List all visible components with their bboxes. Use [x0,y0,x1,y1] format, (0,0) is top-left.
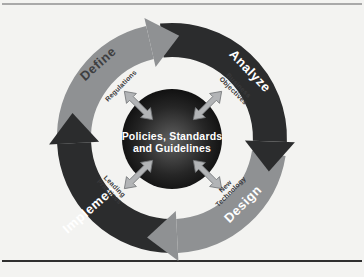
center-label-line2: and Guidelines [133,142,211,154]
center-label-line1: Policies, Standards [122,130,223,142]
scanned-figure-page: Policies, Standards and Guidelines Defin… [0,0,364,277]
policy-lifecycle-cycle-diagram: Policies, Standards and Guidelines Defin… [0,0,364,277]
